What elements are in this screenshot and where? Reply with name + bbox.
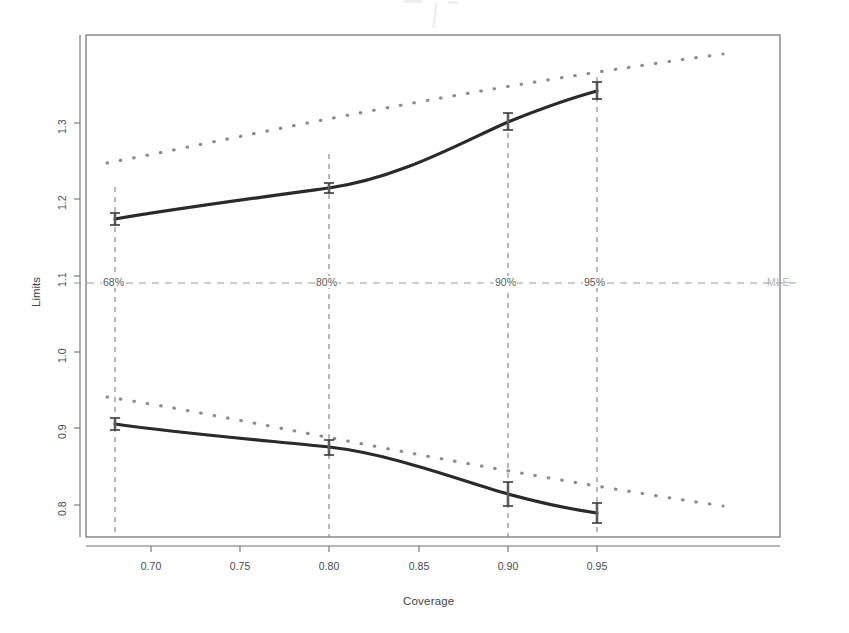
- asymptotic-lower-curve: [107, 397, 723, 506]
- upper-limit-curve: [115, 91, 597, 219]
- y-axis-title: Limits: [30, 277, 42, 307]
- x-tick-label: 0.70: [131, 560, 171, 572]
- chart-plot-area: [0, 0, 849, 633]
- x-tick-label: 0.85: [399, 560, 439, 572]
- mle-line-label: MLE: [767, 276, 790, 288]
- x-tick-label: 0.90: [488, 560, 528, 572]
- y-tick-label: 0.8: [56, 501, 68, 516]
- x-tick-label: 0.95: [577, 560, 617, 572]
- y-tick-label: 0.9: [56, 424, 68, 439]
- figure-canvas: 0.70 0.75 0.80 0.85 0.90 0.95 0.8 0.9 1.…: [0, 0, 849, 633]
- asymptotic-upper-curve: [107, 54, 723, 163]
- y-tick-label: 1.0: [56, 348, 68, 363]
- lower-limit-curve: [115, 424, 597, 513]
- y-tick-label: 1.1: [56, 272, 68, 287]
- upper-error-bar-caps: [110, 82, 602, 225]
- x-tick-label: 0.75: [220, 560, 260, 572]
- coverage-annotation-80: 80%: [315, 276, 338, 288]
- coverage-annotation-68: 68%: [102, 276, 125, 288]
- plot-frame: [86, 35, 780, 537]
- x-axis-title: Coverage: [403, 595, 454, 607]
- x-tick-label: 0.80: [309, 560, 349, 572]
- coverage-annotation-90: 90%: [494, 276, 517, 288]
- y-axis-ticks: [74, 123, 80, 505]
- y-tick-label: 1.3: [56, 119, 68, 134]
- y-tick-label: 1.2: [56, 195, 68, 210]
- x-axis-ticks: [151, 546, 597, 552]
- coverage-annotation-95: 95%: [583, 276, 606, 288]
- upper-error-bars: [115, 82, 597, 225]
